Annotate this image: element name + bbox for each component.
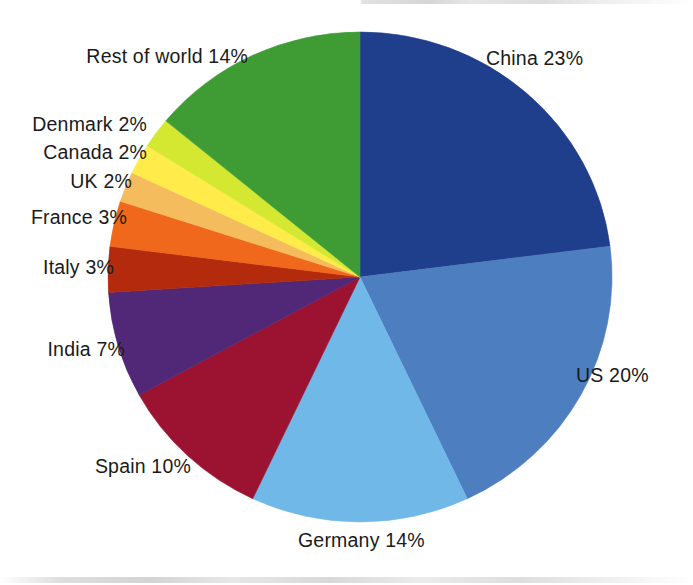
slice-label-italy: Italy 3% — [43, 258, 114, 278]
slice-label-france: France 3% — [31, 208, 127, 228]
slice-label-rest-of-world: Rest of world 14% — [86, 47, 248, 67]
pie-graphic — [0, 0, 693, 585]
slice-label-denmark: Denmark 2% — [32, 115, 147, 135]
slice-label-uk: UK 2% — [70, 172, 132, 192]
slice-label-canada: Canada 2% — [43, 143, 147, 163]
slice-label-china: China 23% — [486, 49, 583, 69]
pie-slices-group — [108, 32, 612, 522]
slice-label-india: India 7% — [48, 340, 126, 360]
slice-label-spain: Spain 10% — [95, 457, 191, 477]
slice-label-us: US 20% — [576, 366, 649, 386]
pie-chart: China 23% US 20% Germany 14% Spain 10% I… — [0, 0, 693, 585]
slice-label-germany: Germany 14% — [298, 531, 425, 551]
